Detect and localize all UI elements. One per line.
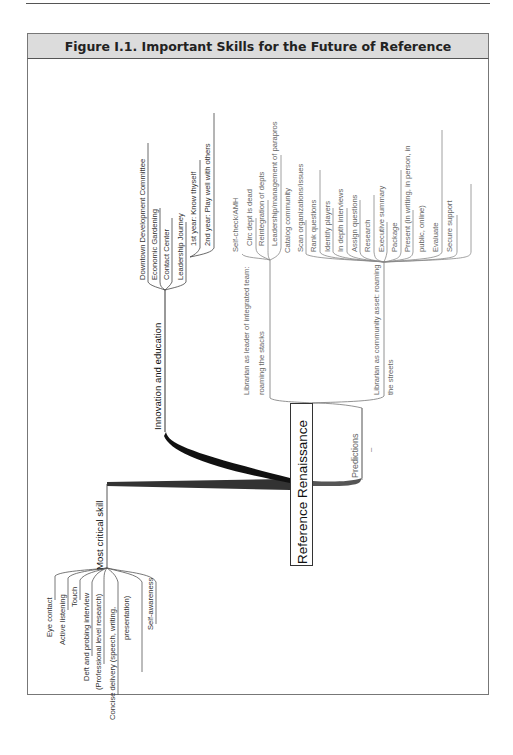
leaf-identify-players: Identify players [324, 201, 332, 252]
leaf-rank-questions: Rank questions [310, 200, 318, 252]
branch-leader-label-2: roaming the stacks [258, 331, 266, 395]
leaf-presentation: presentation) [123, 596, 131, 640]
leaf-catalog-community: Catalog community [284, 188, 292, 253]
leaf-second-year: 2nd year: Play well with others [204, 143, 212, 246]
branch-leader-label-1: Librarian as leader of integrated team: [243, 267, 251, 395]
predictions-dash: – [367, 448, 375, 452]
leaf-professional-research: (Professional level research) [95, 594, 103, 690]
branch-community-label-1: Librarian as community asset: roaming [373, 265, 381, 395]
leaf-circ-dept: Circ dept is dead [246, 189, 254, 246]
root-label: Reference Renaissance [293, 420, 312, 564]
leaf-self-awareness: Self-awareness [147, 578, 155, 630]
leaf-research: Research [364, 220, 372, 253]
leaf-public-online: public, online) [418, 205, 426, 252]
leaf-secure-support: Secure support [446, 201, 454, 253]
leaf-present: Present (in writing, in person, in [404, 146, 412, 252]
trunk-predictions [313, 478, 362, 486]
trunk-innovation [164, 432, 290, 483]
leaf-leadership-parapros: Leadership/management of parapros [271, 121, 279, 246]
leaf-self-check: Self-check/AMH [232, 198, 240, 252]
leaf-concise-delivery: Concise delivery (speech, writing, [109, 607, 117, 720]
root-node: Reference Renaissance [290, 403, 313, 566]
leaf-assign-questions: Assign questions [351, 195, 359, 252]
predictions-bracket [270, 260, 384, 478]
branch-innovation-label: Innovation and education [153, 323, 163, 430]
branch-most-critical-label: Most critical skill [95, 501, 105, 570]
trunk-most-critical [107, 479, 290, 490]
leaf-deft-interview: Deft and probing interview [83, 593, 91, 681]
leaf-touch: Touch [71, 587, 79, 607]
leaf-active-listening: Active listening [59, 594, 67, 645]
leaf-first-year: 1st year: Know thyself [190, 172, 198, 246]
leaf-in-depth-interviews: In depth interviews [337, 189, 345, 252]
leaf-economic-gardening: Economic Gardening [151, 209, 159, 280]
leaf-executive-summary: Executive summary [378, 186, 386, 252]
leaf-contact-center: Contact Center [163, 229, 171, 280]
leaf-eye-contact: Eye contact [46, 597, 54, 637]
branch-predictions-label: Predictions [351, 433, 360, 478]
leaf-evaluate: Evaluate [432, 222, 440, 252]
branch-community-label-2: the streets [387, 360, 395, 395]
leaf-scan-organizations: Scan organizations/issues [297, 164, 305, 252]
leaf-leadership-journey: Leadership Journey [177, 213, 185, 280]
leaf-downtown-committee: Downtown Development Committee [139, 159, 147, 280]
leaf-reintegration: Reintegration of depts [258, 172, 266, 246]
leaf-package: Package [391, 222, 399, 252]
